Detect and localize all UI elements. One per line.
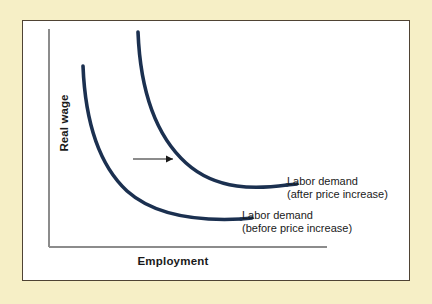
curve-label-after: Labor demand (after price increase) xyxy=(287,175,388,200)
curve-label-after-line1: Labor demand xyxy=(287,175,388,188)
curve-label-before-line2: (before price increase) xyxy=(242,222,352,235)
curve-label-before-line1: Labor demand xyxy=(242,209,352,222)
curve-label-before: Labor demand (before price increase) xyxy=(242,209,352,234)
y-axis-title: Real wage xyxy=(58,78,70,168)
plot-canvas xyxy=(23,21,411,282)
chart-panel: Real wage Employment Labor demand (after… xyxy=(22,20,410,281)
shift-arrow-icon xyxy=(133,156,173,163)
curve-labor-demand-before xyxy=(83,66,241,219)
x-axis-title: Employment xyxy=(23,255,323,267)
curve-label-after-line2: (after price increase) xyxy=(287,188,388,201)
curve-labor-demand-after xyxy=(138,32,287,187)
figure-root: Real wage Employment Labor demand (after… xyxy=(0,0,432,304)
